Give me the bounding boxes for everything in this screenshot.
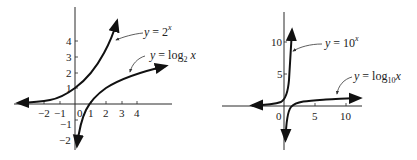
- label-log10: y = log10x: [337, 69, 401, 94]
- svg-text:10: 10: [271, 36, 283, 48]
- svg-text:3: 3: [119, 107, 125, 119]
- svg-text:2: 2: [103, 107, 109, 119]
- svg-text:−2: −2: [38, 107, 50, 119]
- svg-text:y = log2 x: y = log2 x: [149, 48, 196, 64]
- svg-text:2: 2: [66, 67, 72, 79]
- svg-text:10: 10: [340, 110, 352, 122]
- label-exp2: y = 2x: [116, 23, 172, 40]
- svg-text:1: 1: [88, 107, 94, 119]
- svg-text:0: 0: [276, 110, 282, 122]
- svg-text:5: 5: [312, 110, 318, 122]
- left-graph: −2 −1 0 1 2 3 4 4 3 2 1 −1 −2 y = 2x: [14, 7, 196, 150]
- svg-text:5: 5: [277, 68, 283, 80]
- svg-text:4: 4: [66, 35, 72, 47]
- svg-text:−1: −1: [60, 118, 72, 130]
- svg-text:y = 10x: y = 10x: [324, 34, 359, 50]
- svg-text:−2: −2: [59, 134, 71, 146]
- label-log2: y = log2 x: [130, 48, 196, 72]
- svg-text:4: 4: [134, 107, 140, 119]
- svg-text:y = 2x: y = 2x: [143, 23, 172, 39]
- right-y-tick-labels: 10 5: [271, 36, 283, 80]
- curve-log2: [77, 66, 166, 146]
- left-x-tick-labels: −2 −1 0 1 2 3 4: [38, 107, 140, 119]
- svg-text:y = log10x: y = log10x: [353, 69, 401, 85]
- label-exp10: y = 10x: [293, 34, 359, 51]
- figure: −2 −1 0 1 2 3 4 4 3 2 1 −1 −2 y = 2x: [0, 0, 417, 160]
- right-graph: 0 5 10 10 5 y = 10x y = log10x: [222, 12, 401, 150]
- svg-text:3: 3: [66, 51, 72, 63]
